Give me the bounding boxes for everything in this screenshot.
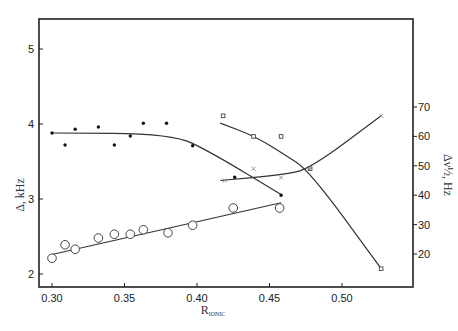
filled-dot-marker <box>74 128 77 131</box>
x-tick-label: 0.45 <box>259 292 280 304</box>
square-marker <box>221 114 225 118</box>
open-circle-marker <box>71 245 80 254</box>
x-tick-label: 0.50 <box>331 292 352 304</box>
filled-dot-marker <box>63 143 66 146</box>
y-right-tick-label: 60 <box>418 130 430 142</box>
x-tick-label: 0.35 <box>114 292 135 304</box>
fit-line <box>52 133 281 195</box>
filled-dot-marker <box>142 122 145 125</box>
filled-dot-marker <box>279 194 282 197</box>
x-axis-ticks: 0.300.350.400.450.50 <box>41 283 352 304</box>
plot-frame <box>39 19 413 287</box>
open-circle-marker <box>229 204 238 213</box>
square-marker <box>252 135 256 139</box>
square-marker <box>379 267 383 271</box>
y-right-tick-label: 40 <box>418 189 430 201</box>
y-right-tick-label: 70 <box>418 101 430 113</box>
filled-dot-marker <box>191 144 194 147</box>
open-circle-marker <box>139 225 148 234</box>
y-right-tick-label: 30 <box>418 219 430 231</box>
fit-lines <box>52 116 381 269</box>
fit-line <box>220 123 381 269</box>
data-points <box>48 114 383 271</box>
plot-border <box>39 19 413 287</box>
filled-dot-marker <box>113 143 116 146</box>
open-circle-marker <box>164 228 173 237</box>
y-tick-label: 3 <box>28 193 34 205</box>
y-axis-right-label: Δν½, Hz <box>441 154 455 196</box>
square-marker <box>279 135 283 139</box>
x-tick-label: 0.30 <box>41 292 62 304</box>
filled-dot-marker <box>129 134 132 137</box>
open-circle-marker <box>110 230 119 239</box>
y-right-tick-label: 20 <box>418 248 430 260</box>
y-axis-left-label: Δ, kHz <box>13 178 27 212</box>
open-circle-marker <box>48 254 57 263</box>
fit-line <box>220 116 381 181</box>
x-axis-label: RIONIC <box>201 303 226 317</box>
y-tick-label: 4 <box>28 118 34 130</box>
y-axis-right-ticks: 203040506070 <box>413 101 430 260</box>
filled-dot-marker <box>50 131 53 134</box>
chart: 0.300.350.400.450.50 2345 203040506070 R… <box>0 0 458 331</box>
cross-marker <box>252 167 256 171</box>
open-circle-marker <box>94 234 103 243</box>
open-circle-marker <box>275 204 284 213</box>
open-circle-marker <box>61 240 70 249</box>
y-tick-label: 2 <box>28 268 34 280</box>
cross-marker <box>279 176 283 180</box>
filled-dot-marker <box>165 122 168 125</box>
y-axis-left-ticks: 2345 <box>28 43 43 280</box>
open-circle-marker <box>188 221 197 230</box>
open-circle-marker <box>126 230 135 239</box>
filled-dot-marker <box>97 125 100 128</box>
y-tick-label: 5 <box>28 43 34 55</box>
y-right-tick-label: 50 <box>418 160 430 172</box>
cross-marker <box>379 114 383 118</box>
filled-dot-marker <box>233 176 236 179</box>
